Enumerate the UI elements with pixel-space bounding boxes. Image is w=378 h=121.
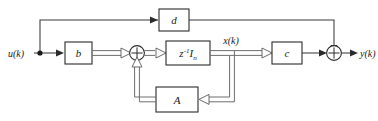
arrowhead-into-d — [150, 17, 158, 24]
input-signal-label: u(k) — [8, 48, 25, 60]
wire-d-to-output-sum — [189, 20, 334, 46]
diagram-svg: d u(k) b z-1In x(k) — [0, 0, 378, 121]
state-signal-label: x(k) — [222, 35, 239, 47]
block-diagram-canvas: d u(k) b z-1In x(k) — [0, 0, 378, 121]
arrowhead-into-c — [262, 48, 272, 58]
wire-a-to-sum-left — [135, 66, 156, 97]
output-signal-label: y(k) — [359, 48, 376, 60]
wire-a-to-sum-right — [139, 66, 156, 102]
arrowhead-output — [350, 50, 358, 57]
block-a-label: A — [173, 94, 181, 106]
wire-state-tap-down-inner — [209, 51, 234, 102]
wire-state-tap-down-outer — [209, 55, 230, 97]
arrowhead-into-a — [199, 94, 209, 104]
block-d-label: d — [171, 14, 177, 26]
block-c-label: c — [285, 47, 290, 59]
arrowhead-into-b — [56, 50, 64, 57]
block-delay-dimension: n — [193, 54, 197, 62]
arrowhead-c-into-sum — [319, 50, 327, 57]
arrowhead-into-delay — [156, 48, 166, 58]
input-tap-node — [37, 50, 42, 55]
block-b-label: b — [76, 47, 82, 59]
